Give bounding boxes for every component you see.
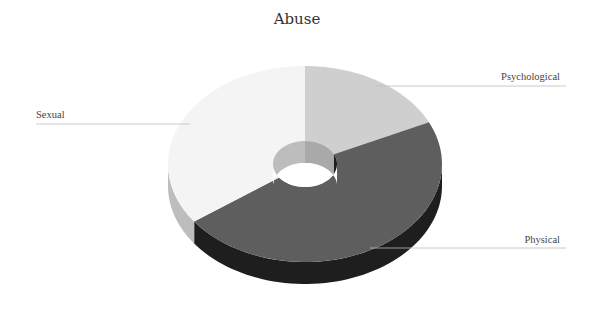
chart-title: Abuse [273, 10, 321, 28]
slice-label-psychological: Psychological [501, 71, 560, 82]
donut-chart: Abuse Psychological Sexual Physical [0, 0, 595, 309]
donut-body [168, 66, 442, 284]
slice-label-sexual: Sexual [36, 109, 65, 120]
slice-label-physical: Physical [524, 234, 560, 245]
